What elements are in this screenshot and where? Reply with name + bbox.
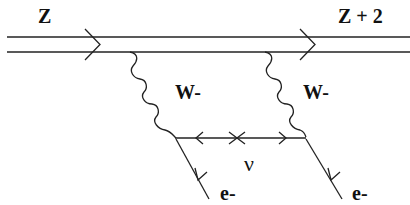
w-boson-right [265, 52, 306, 137]
electron-line-right [306, 139, 342, 199]
label-boson-right: W- [303, 82, 329, 102]
label-nucleus-out: Z + 2 [338, 6, 383, 26]
electron-arrow-left-icon [195, 168, 207, 180]
label-neutrino: ν [244, 153, 254, 175]
w-boson-left [130, 52, 176, 138]
feynman-diagram [0, 0, 410, 205]
electron-line-left [176, 139, 209, 199]
label-electron-left: e- [220, 183, 236, 203]
label-electron-right: e- [352, 183, 368, 203]
label-boson-left: W- [175, 82, 201, 102]
label-nucleus-in: Z [38, 6, 51, 26]
nucleus-arrow-left-icon [85, 29, 100, 60]
nucleus-arrow-right-icon [300, 29, 315, 60]
